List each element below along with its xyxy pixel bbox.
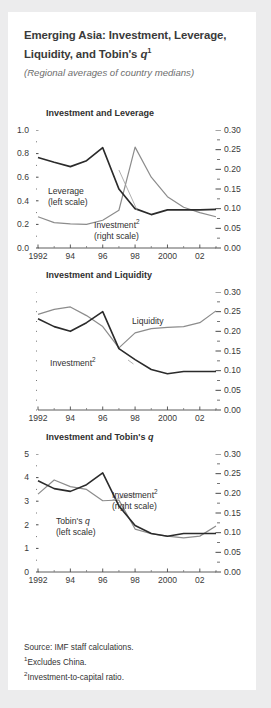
y-axis-right-label: 0.10 (224, 528, 241, 537)
figure-title: Emerging Asia: Investment, Leverage, Liq… (24, 28, 244, 62)
figure-title-line2: Liquidity, and Tobin's (24, 48, 140, 60)
series-annotation-scale: (right scale) (94, 231, 140, 242)
series-annotation-label: Investment2 (50, 354, 96, 369)
x-axis-label: 94 (66, 575, 76, 585)
panel-investment-and-liquidity: Investment and Liquidity0.000.050.100.15… (8, 270, 256, 436)
x-axis-label: 1992 (28, 413, 47, 423)
y-axis-right-label: 0.25 (224, 469, 241, 478)
x-axis-label: 98 (130, 251, 140, 261)
footnote-1-text: Excludes China. (27, 658, 86, 667)
figure-title-footnote-marker: 1 (147, 46, 151, 55)
series-annotation: Investment2(right scale) (94, 216, 140, 242)
series-annotation-scale: (left scale) (48, 197, 88, 208)
panel-title-text: Investment and Tobin's (46, 432, 148, 442)
y-axis-right-label: 0.10 (224, 366, 241, 375)
source-note: Source: IMF staff calculations. (24, 642, 240, 653)
y-axis-left-label: 1.0 (8, 126, 29, 135)
x-axis-label: 2000 (158, 575, 177, 585)
x-axis-label: 1992 (28, 575, 47, 585)
x-axis-label: 1992 (28, 251, 47, 261)
series-annotation: Tobin's q(left scale) (56, 516, 96, 538)
y-axis-right-label: 0.05 (224, 224, 241, 233)
series-annotation: Liquidity (132, 316, 164, 327)
y-axis-left-label: 0.6 (8, 173, 29, 182)
y-axis-right-label: 0.25 (224, 307, 241, 316)
y-axis-left-label: 0.4 (8, 197, 29, 206)
y-axis-right-label: 0.15 (224, 347, 241, 356)
series-annotation-label: Tobin's q (56, 516, 96, 527)
series-annotation: Investment2(right scale) (112, 486, 158, 512)
y-axis-right-label: 0.15 (224, 509, 241, 518)
panel-investment-and-leverage: Investment and Leverage0.00.20.40.60.81.… (8, 108, 256, 274)
x-axis-label: 96 (98, 413, 108, 423)
y-axis-left-label: 0.8 (8, 149, 29, 158)
x-axis-label: 02 (195, 413, 205, 423)
y-axis-right-label: 0.10 (224, 204, 241, 213)
x-axis-label: 94 (66, 413, 76, 423)
series-annotation-footnote-marker: 2 (154, 488, 158, 495)
series-annotation-label: Liquidity (132, 316, 164, 327)
series-annotation-scale: (right scale) (112, 501, 158, 512)
x-axis-label: 02 (195, 251, 205, 261)
y-axis-right-label: 0.20 (224, 489, 241, 498)
x-axis-label: 96 (98, 575, 108, 585)
footnote-2-text: Investment-to-capital ratio. (27, 673, 123, 682)
y-axis-left-label: 2 (8, 521, 29, 530)
y-axis-right-label: 0.30 (224, 450, 241, 459)
x-axis-label: 2000 (158, 251, 177, 261)
series-annotation-footnote-marker: 2 (136, 218, 140, 225)
series-annotation-label: Leverage (48, 186, 88, 197)
y-axis-right-label: 0.00 (224, 568, 241, 577)
series-annotation-q-symbol: q (85, 516, 90, 526)
y-axis-right-label: 0.05 (224, 386, 241, 395)
y-axis-left-label: 4 (8, 473, 29, 482)
panel-investment-and-tobins-q: Investment and Tobin's q0123450.000.050.… (8, 432, 256, 598)
y-axis-right-label: 0.20 (224, 165, 241, 174)
panel-title: Investment and Liquidity (46, 270, 152, 280)
panel-title: Investment and Leverage (46, 108, 154, 118)
x-axis-label: 98 (130, 575, 140, 585)
footnote-2: 2Investment-to-capital ratio. (24, 668, 240, 683)
y-axis-right-label: 0.20 (224, 327, 241, 336)
x-axis-label: 02 (195, 575, 205, 585)
series-annotation-label: Investment2 (94, 216, 140, 231)
y-axis-right-label: 0.30 (224, 126, 241, 135)
series-line (38, 307, 216, 348)
figure-subtitle: (Regional averages of country medians) (24, 67, 244, 79)
y-axis-right-label: 0.00 (224, 406, 241, 415)
series-annotation: Investment2 (50, 354, 96, 369)
y-axis-left-label: 0.2 (8, 220, 29, 229)
y-axis-left-label: 0 (8, 568, 29, 577)
y-axis-right-label: 0.25 (224, 145, 241, 154)
footnote-1: 1Excludes China. (24, 653, 240, 668)
x-axis-label: 2000 (158, 413, 177, 423)
series-annotation-footnote-marker: 2 (92, 356, 96, 363)
figure-header: Emerging Asia: Investment, Leverage, Liq… (24, 28, 244, 79)
y-axis-left-label: 5 (8, 450, 29, 459)
y-axis-right-label: 0.00 (224, 244, 241, 253)
y-axis-left-label: 3 (8, 497, 29, 506)
panel-title-q-symbol: q (148, 432, 154, 442)
y-axis-left-label: 1 (8, 544, 29, 553)
y-axis-right-label: 0.30 (224, 288, 241, 297)
annotation-leader-line (128, 360, 133, 364)
panel-title: Investment and Tobin's q (46, 432, 153, 442)
series-annotation-scale: (left scale) (56, 527, 96, 538)
series-annotation: Leverage(left scale) (48, 186, 88, 208)
x-axis-label: 98 (130, 413, 140, 423)
figure-card: Emerging Asia: Investment, Leverage, Liq… (8, 12, 256, 690)
series-annotation-label: Investment2 (112, 486, 158, 501)
y-axis-right-label: 0.15 (224, 185, 241, 194)
y-axis-left-label: 0.0 (8, 244, 29, 253)
figure-notes: Source: IMF staff calculations. 1Exclude… (24, 642, 240, 683)
x-axis-label: 94 (66, 251, 76, 261)
y-axis-right-label: 0.05 (224, 548, 241, 557)
x-axis-label: 96 (98, 251, 108, 261)
figure-title-line1: Emerging Asia: Investment, Leverage, (24, 29, 226, 41)
